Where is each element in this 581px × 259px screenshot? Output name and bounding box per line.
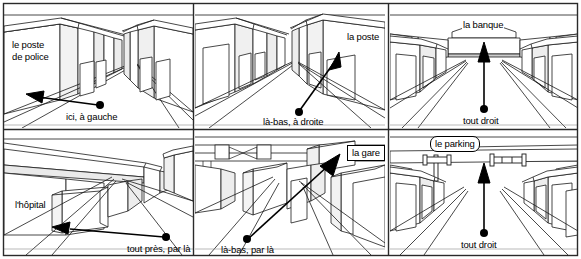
- figure-sheet: le poste de police ici, à gauche: [0, 0, 581, 259]
- panel-grid-frame: [0, 0, 581, 259]
